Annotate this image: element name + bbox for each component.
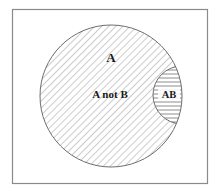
venn-diagram: A A not B AB xyxy=(0,0,218,194)
label-set-a: A xyxy=(106,50,116,65)
label-a-not-b: A not B xyxy=(92,88,128,100)
label-ab: AB xyxy=(162,89,177,100)
